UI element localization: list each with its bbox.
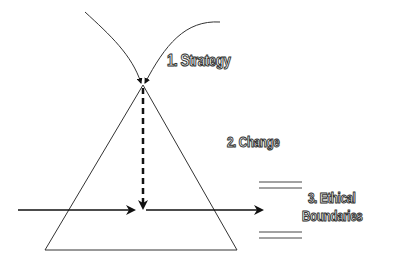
label-change: 2. Change xyxy=(227,134,279,149)
diagram: 1. Strategy 2. Change 3. Ethical Boundar… xyxy=(0,0,400,266)
label-boundaries: Boundaries xyxy=(302,208,362,223)
diagram-graphics xyxy=(0,0,400,266)
left-curve xyxy=(85,12,141,83)
boundary-lines-bottom xyxy=(259,232,302,238)
label-strategy: 1. Strategy xyxy=(167,52,231,69)
boundary-lines-top xyxy=(259,182,302,188)
label-ethical: 3. Ethical xyxy=(308,190,355,205)
triangle xyxy=(45,85,237,250)
